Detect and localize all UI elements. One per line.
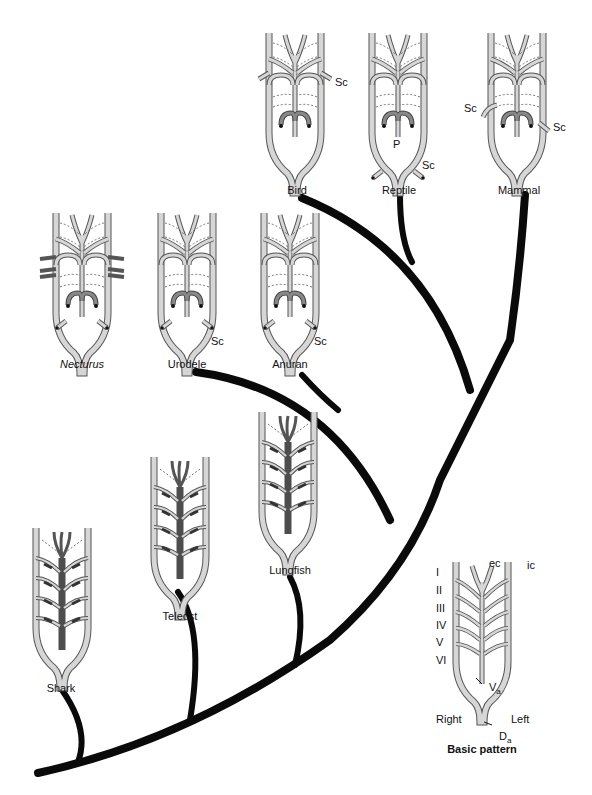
label-necturus: Necturus [60, 358, 104, 370]
diagram-anuran [263, 213, 317, 373]
label-lungfish: Lungfish [269, 564, 311, 576]
p-reptile: P [393, 138, 400, 150]
branch-reptile [400, 195, 412, 262]
label-left: Left [511, 713, 529, 725]
diagram-basic-pattern [456, 562, 508, 725]
diagram-urodele [160, 213, 214, 373]
diagram-shark [36, 528, 88, 688]
branch-anuran [302, 375, 338, 410]
arch-numeral-5: V [436, 636, 443, 648]
branch-shark [62, 690, 82, 762]
branch-lungfish [290, 577, 300, 665]
label-basic-pattern: Basic pattern [447, 743, 517, 755]
label-right: Right [436, 713, 462, 725]
diagram-necturus [40, 213, 124, 373]
sc-urodele: Sc [211, 335, 224, 347]
arch-numeral-6: VI [436, 654, 446, 666]
diagram-reptile [371, 33, 425, 193]
sc-bird: Sc [335, 76, 348, 88]
label-bird: Bird [287, 184, 307, 196]
sc-anuran: Sc [314, 335, 327, 347]
label-shark: Shark [47, 682, 76, 694]
label-ec: ec [489, 557, 501, 569]
diagram-bird [259, 33, 331, 193]
label-teleost: Teleost [163, 610, 198, 622]
arch-numeral-2: II [436, 584, 442, 596]
sc-mammal-right: Sc [464, 102, 477, 114]
label-ic: ic [527, 559, 535, 571]
branch-amniotes [302, 198, 470, 390]
sc-mammal-left: Sc [553, 121, 566, 133]
diagram-lungfish [262, 412, 314, 572]
diagram-mammal [483, 33, 549, 193]
label-reptile: Reptile [382, 184, 416, 196]
label-urodele: Urodele [168, 358, 207, 370]
label-anuran: Anuran [272, 358, 307, 370]
arch-numeral-4: IV [436, 619, 446, 631]
arch-numeral-1: I [436, 566, 439, 578]
branch-amphibians [196, 372, 390, 520]
label-mammal: Mammal [498, 184, 540, 196]
label-va: Va [489, 681, 501, 698]
sc-reptile: Sc [422, 159, 435, 171]
aortic-arch-phylogeny [0, 0, 592, 795]
arch-numeral-3: III [436, 602, 445, 614]
